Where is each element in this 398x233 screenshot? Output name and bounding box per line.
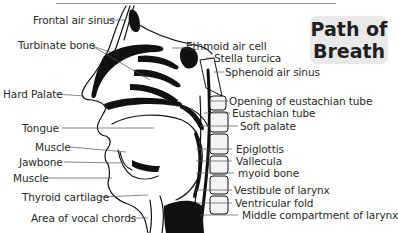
label-hard-palate: Hard Palate: [3, 88, 63, 100]
jaw-bone: [120, 152, 132, 170]
label-area-of-vocal-chords: Area of vocal chords: [31, 212, 136, 224]
label-epiglottis: Epiglottis: [236, 143, 284, 155]
label-muscle-2: Muscle: [13, 172, 49, 184]
label-eustachian-tube: Eustachian tube: [232, 107, 315, 119]
label-thyroid-cartilage: Thyroid cartilage: [22, 191, 109, 203]
label-middle-compartment-of-larynx: Middle compartment of larynx: [242, 209, 398, 221]
title-box: Path of Breath: [310, 16, 388, 64]
vertebra-4: [210, 156, 228, 174]
label-ventricular-fold: Ventricular fold: [235, 197, 313, 209]
label-vallecula: Vallecula: [236, 155, 282, 167]
jaw-muscle-fill: [132, 160, 160, 172]
label-jawbone: Jawbone: [19, 156, 63, 168]
vertebra-5: [210, 176, 228, 194]
frontal-sinus-fill: [129, 10, 140, 32]
vertebra-1: [210, 96, 226, 110]
label-soft-palate: Soft palate: [240, 120, 296, 132]
label-vestibule-of-larynx: Vestibule of larynx: [234, 184, 330, 196]
label-tongue: Tongue: [22, 122, 59, 134]
leader-muscle-1: [70, 147, 126, 152]
label-opening-of-eustachian-tube: Opening of eustachian tube: [229, 95, 372, 107]
label-ethmoid-air-cell: Ethmoid air cell: [186, 40, 266, 52]
esophagus-fill: [164, 201, 204, 233]
label-muscle-1: Muscle: [35, 141, 71, 153]
label-myoid-bone: myoid bone: [238, 167, 299, 179]
larynx-front: [150, 200, 152, 233]
vertebra-2: [210, 112, 228, 132]
larynx-inner: [160, 196, 163, 233]
label-turbinate-bone: Turbinate bone: [18, 39, 95, 51]
turbinate-fill-1: [138, 55, 179, 69]
vertebra-3: [210, 134, 228, 154]
leader-jawbone: [64, 162, 124, 163]
title-line-2: Breath: [310, 40, 388, 62]
title-line-1: Path of: [310, 18, 388, 40]
turbinate-fill-2: [134, 70, 181, 88]
label-stella-turcica: Stella turcica: [214, 52, 281, 64]
label-sphenoid-air-sinus: Sphenoid air sinus: [225, 66, 320, 78]
vertebra-6: [210, 196, 228, 214]
label-frontal-air-sinus: Frontal air sinus: [33, 14, 115, 26]
